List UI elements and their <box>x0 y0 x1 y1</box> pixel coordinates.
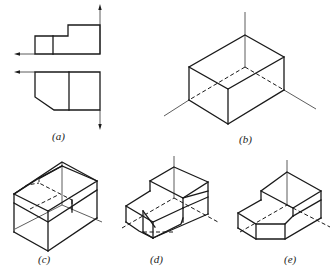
label-d: (d) <box>150 253 163 266</box>
panel-d-chamfer-outline: (d) <box>122 156 218 266</box>
label-b: (b) <box>239 133 252 146</box>
view-a-top <box>14 70 102 130</box>
drawing-canvas: (a) (b) <box>0 0 333 270</box>
panel-e-finished: (e) <box>238 160 330 266</box>
view-a-front <box>14 4 102 56</box>
arrow-left-icon <box>14 52 20 55</box>
arrow-left-icon <box>14 70 20 73</box>
label-e: (e) <box>284 253 297 266</box>
arrow-down-icon <box>98 124 101 130</box>
label-c: (c) <box>38 253 51 266</box>
arrow-up-icon <box>98 4 101 10</box>
panel-c-step-cut: (c) <box>14 162 102 266</box>
panel-b-isometric-box: (b) <box>164 12 316 146</box>
label-a: (a) <box>52 130 65 143</box>
panel-a-orthographic: (a) <box>14 4 102 143</box>
